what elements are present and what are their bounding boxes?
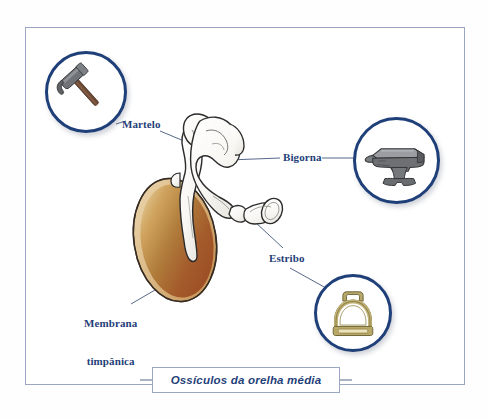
hammer-bubble[interactable]: [45, 51, 127, 133]
label-estribo: Estribo: [269, 252, 305, 265]
stapes-bone: [229, 195, 286, 227]
label-martelo: Martelo: [122, 118, 161, 131]
label-membrana-line1: Membrana: [84, 317, 137, 330]
label-membrana-line2: timpânica: [84, 355, 137, 368]
anvil-icon: [356, 120, 437, 201]
stirrup-icon: [317, 277, 389, 349]
anvil-bubble[interactable]: [353, 117, 440, 204]
figure-canvas: Martelo Bigorna Estribo Membrana timpâni…: [0, 0, 488, 419]
label-bigorna: Bigorna: [283, 151, 322, 164]
leader-estribo: [255, 222, 283, 248]
stirrup-bubble[interactable]: [314, 274, 392, 352]
hammer-icon: [48, 54, 124, 130]
caption-text: Ossículos da orelha média: [171, 374, 322, 386]
label-membrana-timpanica: Membrana timpânica: [84, 292, 137, 392]
caption-box: Ossículos da orelha média: [152, 367, 340, 393]
